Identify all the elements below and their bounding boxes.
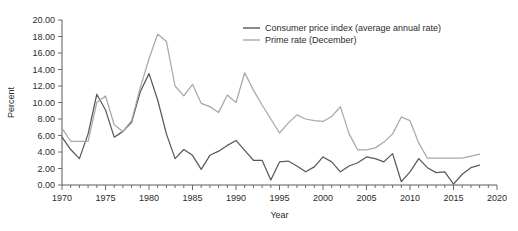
y-tick-label: 20.00 bbox=[32, 15, 55, 25]
y-tick-label: 8.00 bbox=[37, 114, 55, 124]
y-axis: 0.002.004.006.008.0010.0012.0014.0016.00… bbox=[32, 15, 62, 190]
y-tick-label: 2.00 bbox=[37, 164, 55, 174]
series-line-prime-rate bbox=[62, 34, 480, 158]
legend-label-cpi: Consumer price index (average annual rat… bbox=[265, 23, 441, 33]
x-tick-label: 2000 bbox=[313, 193, 333, 203]
line-chart: 0.002.004.006.008.0010.0012.0014.0016.00… bbox=[0, 0, 518, 231]
y-tick-label: 16.00 bbox=[32, 48, 55, 58]
x-tick-label: 1990 bbox=[226, 193, 246, 203]
chart-legend: Consumer price index (average annual rat… bbox=[243, 23, 441, 45]
x-tick-label: 2005 bbox=[356, 193, 376, 203]
legend-label-prime-rate: Prime rate (December) bbox=[265, 35, 357, 45]
y-tick-label: 0.00 bbox=[37, 180, 55, 190]
x-tick-label: 1980 bbox=[139, 193, 159, 203]
y-tick-label: 12.00 bbox=[32, 81, 55, 91]
x-tick-label: 1975 bbox=[95, 193, 115, 203]
x-tick-label: 1985 bbox=[182, 193, 202, 203]
y-tick-label: 6.00 bbox=[37, 131, 55, 141]
x-axis: 1970197519801985199019952000200520102015… bbox=[52, 185, 507, 203]
chart-canvas: 0.002.004.006.008.0010.0012.0014.0016.00… bbox=[0, 0, 518, 231]
x-tick-label: 1970 bbox=[52, 193, 72, 203]
x-axis-title: Year bbox=[270, 210, 288, 220]
y-tick-label: 10.00 bbox=[32, 98, 55, 108]
y-tick-label: 14.00 bbox=[32, 65, 55, 75]
x-tick-label: 1995 bbox=[269, 193, 289, 203]
x-tick-label: 2015 bbox=[443, 193, 463, 203]
y-tick-label: 4.00 bbox=[37, 147, 55, 157]
y-axis-title: Percent bbox=[6, 86, 16, 118]
x-tick-label: 2010 bbox=[400, 193, 420, 203]
x-tick-label: 2020 bbox=[487, 193, 507, 203]
data-series-group bbox=[62, 34, 480, 184]
y-tick-label: 18.00 bbox=[32, 32, 55, 42]
